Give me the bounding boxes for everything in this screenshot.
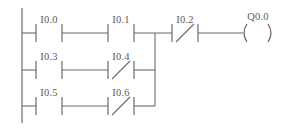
contact-i0-2-label: I0.2 bbox=[176, 14, 193, 25]
contact-i0-3[interactable] bbox=[36, 61, 62, 79]
contact-i0-5[interactable] bbox=[36, 97, 62, 115]
contact-i0-4[interactable] bbox=[108, 61, 134, 79]
contact-i0-6-label: I0.6 bbox=[112, 87, 129, 98]
ladder-logic-diagram: I0.0 I0.1 I0.3 I0.4 bbox=[0, 0, 286, 131]
coil-q0-0[interactable] bbox=[244, 24, 271, 42]
contact-i0-0-label: I0.0 bbox=[40, 14, 57, 25]
contact-i0-2[interactable] bbox=[172, 24, 198, 42]
coil-right-arc-icon bbox=[268, 24, 271, 42]
coil-q0-0-label: Q0.0 bbox=[247, 11, 269, 22]
normally-closed-slash-icon bbox=[112, 97, 130, 115]
contact-i0-6[interactable] bbox=[108, 97, 134, 115]
contact-i0-5-label: I0.5 bbox=[40, 87, 57, 98]
contact-i0-3-label: I0.3 bbox=[40, 51, 57, 62]
normally-closed-slash-icon bbox=[112, 61, 130, 79]
normally-closed-slash-icon bbox=[176, 24, 194, 42]
branch-row-3: I0.5 I0.6 bbox=[22, 87, 155, 115]
contact-i0-1[interactable] bbox=[108, 24, 134, 42]
contact-i0-1-label: I0.1 bbox=[112, 14, 129, 25]
coil-left-arc-icon bbox=[244, 24, 247, 42]
contact-i0-4-label: I0.4 bbox=[112, 51, 130, 62]
branch-row-1: I0.0 I0.1 bbox=[22, 14, 172, 42]
contact-i0-0[interactable] bbox=[36, 24, 62, 42]
branch-row-2: I0.3 I0.4 bbox=[22, 51, 155, 79]
